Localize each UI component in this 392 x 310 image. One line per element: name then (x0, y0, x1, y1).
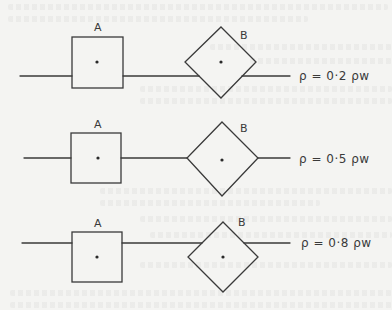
density-equation: ρ = 0·2 ρw (299, 69, 370, 83)
square-a-centre-dot (95, 60, 98, 63)
square-a-centre-dot (95, 255, 98, 258)
diamond-b-label: B (238, 216, 246, 229)
diagram-canvas: A B ρ = 0·2 ρw A B ρ = 0·5 ρw A (0, 0, 392, 310)
square-a-centre-dot (96, 156, 99, 159)
diamond-b-centre-dot (221, 255, 224, 258)
density-equation: ρ = 0·5 ρw (299, 152, 370, 166)
diamond-b-centre-dot (220, 158, 223, 161)
row-1: A B ρ = 0·2 ρw (20, 21, 370, 98)
density-equation: ρ = 0·8 ρw (301, 236, 372, 250)
square-a (71, 133, 121, 183)
square-a-label: A (94, 21, 102, 34)
square-a-label: A (94, 118, 102, 131)
diamond-b-centre-dot (219, 60, 222, 63)
diamond-b-label: B (240, 122, 248, 135)
row-3: A B ρ = 0·8 ρw (22, 216, 372, 292)
float-position-diagram: A B ρ = 0·2 ρw A B ρ = 0·5 ρw A (0, 0, 392, 310)
diamond-b-label: B (240, 29, 248, 42)
row-2: A B ρ = 0·5 ρw (24, 118, 370, 196)
square-a-label: A (94, 217, 102, 230)
